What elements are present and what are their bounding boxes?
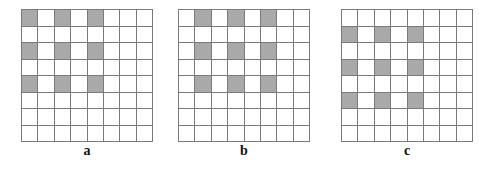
grid-cell: [375, 76, 391, 93]
grid-cell: [424, 76, 440, 93]
grid-cell: [38, 27, 54, 44]
grid-cell: [358, 109, 374, 126]
shaded-cell: [375, 60, 391, 77]
grid-panel-c: [341, 9, 473, 142]
grid-cell: [179, 60, 195, 77]
grid-cell: [88, 109, 104, 126]
grid-cell: [375, 109, 391, 126]
grid-cell: [424, 10, 440, 27]
grid-b: [178, 9, 310, 142]
grid-cell: [277, 27, 293, 44]
grid-cell: [228, 126, 244, 143]
shaded-cell: [195, 76, 211, 93]
grid-cell: [457, 93, 473, 110]
grid-cell: [294, 27, 310, 44]
grid-cell: [22, 27, 38, 44]
grid-cell: [408, 76, 424, 93]
grid-cell: [277, 60, 293, 77]
grid-cell: [245, 10, 261, 27]
grid-a: [21, 9, 153, 142]
grid-cell: [71, 126, 87, 143]
grid-cell: [22, 109, 38, 126]
grid-cell: [375, 10, 391, 27]
grid-cell: [195, 109, 211, 126]
grid-cell: [228, 109, 244, 126]
grid-cell: [137, 109, 153, 126]
grid-cell: [120, 10, 136, 27]
grid-cell: [38, 10, 54, 27]
grid-cell: [71, 93, 87, 110]
grid-cell: [195, 93, 211, 110]
grid-cell: [261, 60, 277, 77]
shaded-cell: [228, 76, 244, 93]
shaded-cell: [195, 10, 211, 27]
shaded-cell: [55, 76, 71, 93]
grid-cell: [71, 43, 87, 60]
grid-cell: [38, 126, 54, 143]
grid-cell: [277, 93, 293, 110]
grid-cell: [440, 10, 456, 27]
grid-cell: [391, 27, 407, 44]
grid-cell: [342, 109, 358, 126]
shaded-cell: [408, 93, 424, 110]
shaded-cell: [22, 76, 38, 93]
grid-cell: [440, 43, 456, 60]
grid-cell: [391, 126, 407, 143]
grid-cell: [277, 43, 293, 60]
grid-cell: [391, 10, 407, 27]
grid-cell: [358, 10, 374, 27]
grid-cell: [424, 60, 440, 77]
grid-cell: [358, 126, 374, 143]
grid-cell: [120, 27, 136, 44]
grid-cell: [457, 10, 473, 27]
grid-cell: [358, 76, 374, 93]
shaded-cell: [342, 60, 358, 77]
shaded-cell: [88, 43, 104, 60]
grid-cell: [104, 76, 120, 93]
shaded-cell: [261, 43, 277, 60]
grid-cell: [22, 60, 38, 77]
grid-cell: [424, 126, 440, 143]
grid-cell: [137, 76, 153, 93]
grid-cell: [358, 93, 374, 110]
grid-cell: [212, 93, 228, 110]
grid-cell: [457, 27, 473, 44]
grid-cell: [22, 93, 38, 110]
grid-cell: [88, 27, 104, 44]
shaded-cell: [342, 93, 358, 110]
panel-label-c: c: [341, 143, 473, 159]
grid-cell: [212, 76, 228, 93]
grid-c: [341, 9, 473, 142]
shaded-cell: [88, 76, 104, 93]
grid-cell: [195, 27, 211, 44]
grid-cell: [71, 27, 87, 44]
grid-cell: [358, 60, 374, 77]
grid-cell: [71, 76, 87, 93]
grid-cell: [408, 109, 424, 126]
grid-cell: [440, 126, 456, 143]
grid-cell: [55, 93, 71, 110]
grid-cell: [342, 126, 358, 143]
grid-cell: [294, 43, 310, 60]
shaded-cell: [375, 93, 391, 110]
grid-cell: [245, 76, 261, 93]
grid-cell: [104, 126, 120, 143]
grid-cell: [277, 126, 293, 143]
grid-cell: [261, 109, 277, 126]
grid-cell: [245, 93, 261, 110]
grid-cell: [104, 10, 120, 27]
shaded-cell: [261, 10, 277, 27]
grid-cell: [261, 93, 277, 110]
grid-cell: [440, 60, 456, 77]
grid-cell: [277, 10, 293, 27]
grid-cell: [391, 93, 407, 110]
grid-cell: [88, 126, 104, 143]
grid-cell: [55, 27, 71, 44]
grid-cell: [261, 126, 277, 143]
grid-cell: [391, 43, 407, 60]
grid-cell: [212, 43, 228, 60]
grid-cell: [212, 27, 228, 44]
shaded-cell: [408, 27, 424, 44]
grid-cell: [228, 60, 244, 77]
grid-cell: [137, 27, 153, 44]
